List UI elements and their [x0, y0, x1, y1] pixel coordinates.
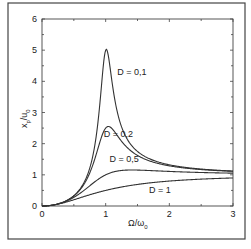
curve-label: D = 0,1 [117, 67, 146, 77]
axis-ticks [42, 19, 233, 206]
x-axis-title: Ω/ω0 [128, 218, 148, 230]
y-tick-label: 0 [32, 201, 37, 211]
y-tick-label: 6 [32, 14, 37, 24]
curve-labels: D = 0,1D = 0,2D = 0,5D = 1 [104, 67, 171, 195]
tick-labels: 01234560123 [32, 14, 236, 219]
curve-label: D = 1 [149, 185, 171, 195]
y-tick-label: 5 [32, 45, 37, 55]
curve-label: D = 0,2 [104, 129, 133, 139]
y-tick-label: 4 [32, 76, 37, 86]
x-tick-label: 0 [39, 209, 44, 219]
curve-1 [42, 178, 233, 206]
y-tick-label: 2 [32, 139, 37, 149]
resonance-chart: 01234560123 D = 0,1D = 0,2D = 0,5D = 1 Ω… [0, 0, 251, 249]
x-tick-label: 3 [230, 209, 235, 219]
curve-0-2 [42, 126, 233, 206]
outer-frame [8, 3, 245, 239]
x-tick-label: 1 [103, 209, 108, 219]
plot-frame [42, 19, 233, 206]
x-tick-label: 2 [167, 209, 172, 219]
curve-label: D = 0,5 [109, 154, 138, 164]
y-axis-title: xp/u0 [19, 109, 31, 128]
y-tick-label: 1 [32, 170, 37, 180]
y-tick-label: 3 [32, 108, 37, 118]
